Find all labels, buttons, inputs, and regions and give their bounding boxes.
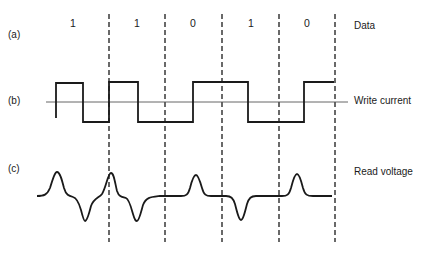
data-bit-1: 1: [134, 17, 140, 29]
row-tag-a: (a): [8, 29, 20, 40]
data-bit-4: 0: [304, 17, 310, 29]
data-label: Data: [354, 20, 376, 31]
row-tag-c: (c): [8, 163, 20, 174]
data-bit-3: 1: [248, 17, 254, 29]
write-read-waveform-diagram: (a) (b) (c) Data Write current Read volt…: [0, 0, 428, 254]
read-voltage-waveform: [37, 172, 332, 221]
read-voltage-label: Read voltage: [354, 166, 413, 177]
row-tag-b: (b): [8, 95, 20, 106]
write-current-label: Write current: [354, 95, 411, 106]
data-bit-2: 0: [190, 17, 196, 29]
data-bit-0: 1: [70, 17, 76, 29]
